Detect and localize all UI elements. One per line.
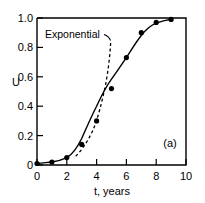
y-axis-title: U [12, 76, 20, 88]
x-tick-label-4: 4 [94, 170, 100, 182]
data-point [154, 20, 159, 25]
y-axis-tick-labels: 1.0 0.8 0.6 0.4 0.2 0 [18, 12, 33, 171]
data-point [109, 86, 114, 91]
logistic-curve [37, 19, 171, 163]
y-axis-ticks [37, 18, 43, 165]
x-tick-label-2: 2 [64, 170, 70, 182]
panel-label: (a) [163, 137, 176, 149]
data-point [124, 55, 129, 60]
y-tick-label-0: 0 [27, 159, 33, 171]
data-point [94, 118, 99, 123]
exponential-annotation-label: Exponential [45, 28, 100, 40]
x-tick-label-10: 10 [180, 170, 192, 182]
data-point [34, 161, 39, 166]
data-point [139, 30, 144, 35]
y-tick-label-0-2: 0.2 [18, 130, 33, 142]
y-tick-label-0-8: 0.8 [18, 41, 33, 53]
data-point [49, 160, 54, 165]
x-tick-label-8: 8 [153, 170, 159, 182]
y-tick-label-0-4: 0.4 [18, 100, 33, 112]
exponential-leader-line [104, 35, 111, 41]
y-tick-label-1-0: 1.0 [18, 12, 33, 24]
data-point [169, 17, 174, 22]
chart-canvas: 1.0 0.8 0.6 0.4 0.2 0 0 2 4 6 8 10 U t, … [0, 0, 205, 203]
data-point [79, 142, 84, 147]
y-tick-label-0-6: 0.6 [18, 71, 33, 83]
figure-container: 1.0 0.8 0.6 0.4 0.2 0 0 2 4 6 8 10 U t, … [0, 0, 205, 203]
x-axis-tick-labels: 0 2 4 6 8 10 [34, 170, 192, 182]
x-tick-label-6: 6 [123, 170, 129, 182]
x-tick-label-0: 0 [34, 170, 40, 182]
data-point [64, 155, 69, 160]
x-axis-title: t, years [94, 185, 131, 197]
